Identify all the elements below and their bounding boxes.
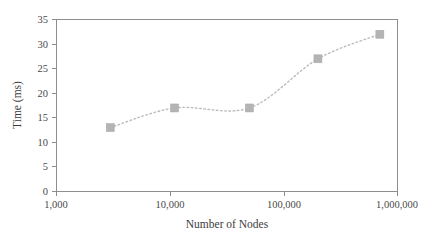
x-axis-title: Number of Nodes [186,218,269,230]
y-tick-label-10: 10 [38,137,49,148]
data-point-marker [245,104,253,112]
y-axis-title: Time (ms) [11,81,24,129]
y-tick-label-25: 25 [38,63,49,74]
chart-figure: 35 30 25 20 15 10 5 0 1,000 10,000 100,0… [0,0,435,237]
series-markers [106,30,384,131]
data-point-marker [376,30,384,38]
y-tick-label-0: 0 [43,186,48,197]
y-tick-label-20: 20 [38,88,49,99]
y-tick-label-5: 5 [43,161,48,172]
line-chart: 35 30 25 20 15 10 5 0 1,000 10,000 100,0… [0,0,435,237]
x-tick-label-1000000: 1,000,000 [376,199,418,210]
x-tick-label-10000: 10,000 [156,199,185,210]
series-line-path [110,34,380,127]
data-point-marker [106,124,114,132]
y-tick-label-15: 15 [38,112,49,123]
x-tick-label-100000: 100,000 [267,199,301,210]
x-axis-tick-labels: 1,000 10,000 100,000 1,000,000 [44,199,418,210]
y-tick-label-35: 35 [38,14,49,25]
y-axis-ticks [52,20,56,192]
data-point-marker [171,104,179,112]
x-tick-label-1000: 1,000 [44,199,68,210]
y-tick-label-30: 30 [38,39,49,50]
y-axis-tick-labels: 35 30 25 20 15 10 5 0 [38,14,49,197]
data-point-marker [314,55,322,63]
